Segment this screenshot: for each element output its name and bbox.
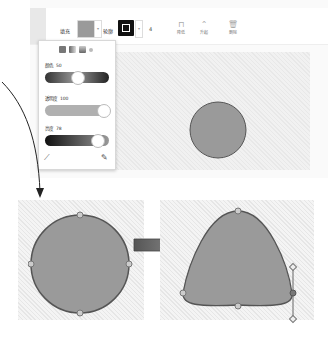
bezier-control-handle [289, 315, 296, 322]
no-fill-mode[interactable] [89, 48, 93, 52]
bring-forward-icon: ⌃ [195, 20, 213, 29]
delete-button[interactable]: 🗑 删除 [224, 20, 242, 35]
solid-fill-mode[interactable] [59, 46, 66, 53]
circle-with-handles [28, 208, 138, 320]
sidebar-strip [30, 8, 46, 44]
selected-node-handle [290, 290, 296, 296]
eyedropper-icon[interactable]: ✎ [101, 153, 108, 162]
delete-label: 删除 [224, 29, 242, 35]
bring-forward-button[interactable]: ⌃ 升起 [195, 20, 213, 35]
stroke-width-value[interactable]: 4 [149, 26, 152, 32]
hue-slider-knob[interactable] [71, 71, 85, 85]
node-handle [126, 261, 132, 267]
fill-color-swatch[interactable] [77, 20, 95, 38]
fill-dropdown-caret[interactable]: ▾ [94, 20, 102, 38]
opacity-value: 100 [60, 96, 69, 101]
outline-dropdown-caret[interactable]: ▾ [135, 20, 143, 38]
node-handle [77, 212, 83, 218]
radial-gradient-mode[interactable] [79, 46, 86, 53]
bezier-control-handle [289, 263, 296, 270]
fill-label: 填充 [60, 27, 70, 34]
reshaped-shape [178, 205, 308, 327]
node-handle [77, 310, 83, 316]
hue-label: 颜色 50 [45, 62, 62, 68]
node-handle [28, 261, 34, 267]
trash-icon: 🗑 [224, 20, 242, 29]
brightness-slider-knob[interactable] [91, 134, 105, 148]
node-handle [180, 290, 186, 296]
circle-shape[interactable] [188, 100, 248, 160]
bring-forward-label: 升起 [195, 29, 213, 35]
send-backward-label: 降低 [172, 29, 190, 35]
linear-gradient-mode[interactable] [69, 46, 76, 53]
node-handle [235, 208, 241, 214]
outline-color-swatch[interactable] [118, 20, 134, 36]
hue-value: 50 [56, 63, 62, 68]
node-handle [235, 303, 241, 309]
send-backward-icon: ⊓ [172, 20, 190, 29]
opacity-slider-knob[interactable] [97, 104, 111, 118]
send-backward-button[interactable]: ⊓ 降低 [172, 20, 190, 35]
fill-mode-row [59, 46, 93, 53]
curved-arrow-icon [0, 80, 60, 200]
outline-label: 轮廓 [103, 27, 113, 34]
